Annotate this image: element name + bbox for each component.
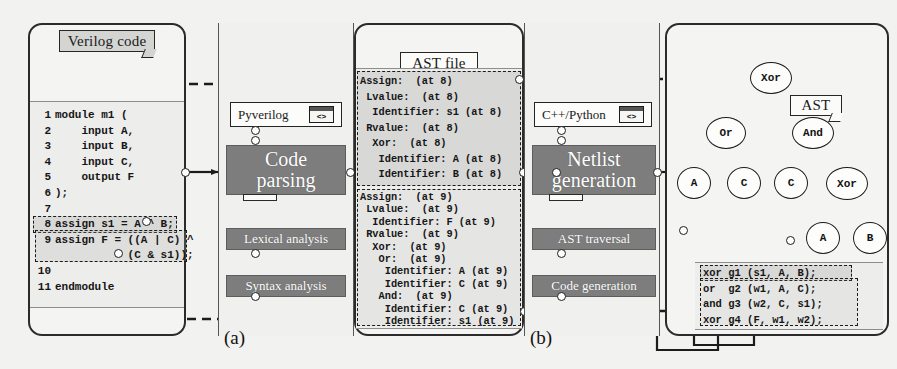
code-line: 11endmodule bbox=[34, 280, 184, 296]
code-line: 8assign s1 = A ^ B; bbox=[34, 217, 184, 233]
tool-pyverilog-label: Pyverilog bbox=[238, 107, 289, 123]
process-lexical-analysis[interactable]: Lexical analysis bbox=[226, 228, 346, 250]
caption-b: (b) bbox=[530, 327, 552, 349]
ast-line: Rvalue: (at 8) bbox=[360, 121, 520, 137]
code-line-text: (C & s1)); bbox=[55, 248, 194, 264]
code-line-text: assign F = ((A | C) ^ bbox=[55, 233, 194, 249]
ast-line: Lvalue: (at 9) bbox=[360, 203, 520, 215]
verilog-code-text: 1module m1 (2 input A,3 input B,4 input … bbox=[34, 108, 184, 295]
tree-node-c-2[interactable]: C bbox=[774, 167, 808, 199]
code-window-icon: <> bbox=[309, 106, 334, 123]
code-window-icon: <> bbox=[619, 106, 644, 123]
process-netlist-generation[interactable]: Netlist generation bbox=[532, 145, 656, 195]
code-line: 7 bbox=[34, 202, 184, 218]
subtree-anchor[interactable] bbox=[786, 236, 795, 245]
tool-cpp-python-label: C++/Python bbox=[542, 107, 606, 123]
code-line: 2 input A, bbox=[34, 124, 184, 140]
anchor-line9[interactable] bbox=[114, 249, 123, 258]
code-line-text: endmodule bbox=[55, 280, 114, 296]
cpp-link-dot-2 bbox=[557, 136, 566, 145]
netlistgen-connector-stub bbox=[549, 194, 583, 201]
cpp-link-dot-1 bbox=[557, 126, 566, 135]
panel-verilog-title: Verilog code bbox=[59, 30, 155, 52]
code-line-text: ); bbox=[55, 186, 68, 202]
code-line-number: 8 bbox=[34, 217, 55, 233]
verilog-output-port[interactable] bbox=[181, 168, 190, 177]
ast-line: Identifier: A (at 8) bbox=[360, 152, 520, 168]
parsing-connector-stub bbox=[243, 194, 277, 201]
netlistgen-input-port[interactable] bbox=[552, 168, 561, 177]
code-line-number: 1 bbox=[34, 108, 55, 124]
ast-line: Identifier: C (at 9) bbox=[360, 278, 520, 290]
tree-node-root-xor[interactable]: Xor bbox=[750, 62, 792, 94]
ast-traversal-output-dot bbox=[557, 249, 566, 258]
process-ast-traversal[interactable]: AST traversal bbox=[532, 228, 656, 250]
code-line-number: 11 bbox=[34, 280, 55, 296]
tree-node-a-anchor[interactable] bbox=[679, 226, 688, 235]
process-code-parsing[interactable]: Code parsing bbox=[226, 145, 346, 195]
code-line: 9assign F = ((A | C) ^ bbox=[34, 233, 184, 249]
netlist-code-text: xor g1 (s1, A, B);or g2 (w1, A, C);and g… bbox=[703, 266, 863, 328]
code-line-text: input A, bbox=[55, 124, 134, 140]
ast-line: Identifier: A (at 9) bbox=[360, 265, 520, 277]
tool-pyverilog[interactable]: Pyverilog <> bbox=[230, 102, 342, 127]
netlist-line: or g2 (w1, A, C); bbox=[703, 282, 863, 298]
ast-line: Identifier: s1 (at 8) bbox=[360, 105, 520, 121]
code-line-text: module m1 ( bbox=[55, 108, 128, 124]
code-line-text: assign s1 = A ^ B; bbox=[55, 217, 174, 233]
code-line-text: input B, bbox=[55, 139, 134, 155]
tree-node-or[interactable]: Or bbox=[706, 117, 746, 149]
tree-node-xor-sub[interactable]: Xor bbox=[826, 167, 868, 200]
code-line-number: 7 bbox=[34, 202, 55, 218]
anchor-line8[interactable] bbox=[142, 217, 151, 226]
code-generation-output-dot bbox=[557, 292, 566, 301]
caption-a: (a) bbox=[224, 327, 245, 349]
ast-line: Identifier: F (at 9) bbox=[360, 216, 520, 228]
ast-line: Identifier: s1 (at 9) bbox=[360, 315, 520, 327]
code-line-number: 3 bbox=[34, 139, 55, 155]
ast-line: Rvalue: (at 9) bbox=[360, 228, 520, 240]
code-line: 3 input B, bbox=[34, 139, 184, 155]
code-line-text: input C, bbox=[55, 155, 134, 171]
pyverilog-link-dot-2 bbox=[251, 136, 260, 145]
process-code-generation[interactable]: Code generation bbox=[532, 275, 656, 297]
syntax-output-dot bbox=[251, 292, 260, 301]
code-line-number: 5 bbox=[34, 170, 55, 186]
tree-node-b[interactable]: B bbox=[853, 222, 887, 254]
ast-line: Or: (at 9) bbox=[360, 253, 520, 265]
code-line: 5 output F bbox=[34, 170, 184, 186]
netlist-line: xor g4 (F, w1, w2); bbox=[703, 313, 863, 329]
netlist-line: xor g1 (s1, A, B); bbox=[703, 266, 863, 282]
ast-line: Xor: (at 9) bbox=[360, 241, 520, 253]
code-line: (C & s1)); bbox=[34, 248, 184, 264]
verilog-rule-bottom bbox=[30, 307, 184, 308]
tree-node-a-1[interactable]: A bbox=[677, 167, 711, 199]
figure-root: Verilog code 1module m1 (2 input A,3 inp… bbox=[0, 0, 897, 369]
ast-line: Lvalue: (at 8) bbox=[360, 90, 520, 106]
ast-line: Xor: (at 8) bbox=[360, 136, 520, 152]
code-line: 6); bbox=[34, 186, 184, 202]
code-line-number: 10 bbox=[34, 264, 55, 280]
code-line-number: 9 bbox=[34, 233, 55, 249]
code-line: 4 input C, bbox=[34, 155, 184, 171]
astblock1-output-port[interactable] bbox=[515, 75, 524, 84]
process-syntax-analysis[interactable]: Syntax analysis bbox=[226, 275, 346, 297]
astfile-rule-bottom bbox=[356, 328, 522, 329]
code-line-number: 6 bbox=[34, 186, 55, 202]
tree-node-c-1[interactable]: C bbox=[727, 167, 761, 199]
ast-block-2-text: Assign: (at 9) Lvalue: (at 9) Identifier… bbox=[358, 190, 520, 327]
netlist-line: and g3 (w2, C, s1); bbox=[703, 297, 863, 313]
pyverilog-link-dot-1 bbox=[251, 126, 260, 135]
tree-node-a-2[interactable]: A bbox=[806, 222, 840, 254]
ast-block-2: Assign: (at 9) Lvalue: (at 9) Identifier… bbox=[357, 189, 521, 326]
tool-cpp-python[interactable]: C++/Python <> bbox=[534, 102, 652, 127]
code-line-number: 2 bbox=[34, 124, 55, 140]
lexical-output-dot bbox=[251, 249, 260, 258]
netlist-rule-bottom bbox=[695, 329, 883, 330]
code-line: 10 bbox=[34, 264, 184, 280]
netlistgen-output-port[interactable] bbox=[653, 168, 662, 177]
code-line-number bbox=[34, 248, 55, 264]
ast-line: Identifier: B (at 8) bbox=[360, 167, 520, 183]
ast-block-1-text: Assign: (at 8) Lvalue: (at 8) Identifier… bbox=[358, 72, 520, 183]
tree-node-and[interactable]: And bbox=[792, 117, 834, 149]
